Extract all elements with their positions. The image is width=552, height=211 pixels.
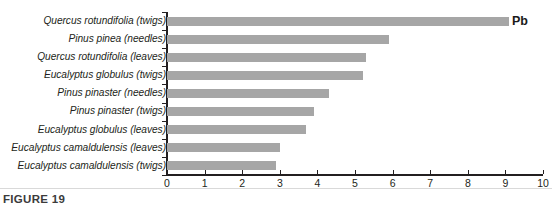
- bar-category-label: Quercus rotundifolia (twigs): [0, 12, 166, 30]
- value-axis-tick: [355, 170, 356, 174]
- value-axis-tick: [505, 170, 506, 174]
- figure-19: Quercus rotundifolia (twigs)Pinus pinea …: [0, 0, 552, 211]
- category-axis-tick: [162, 121, 167, 122]
- bar-category-label: Eucalyptus camaldulensis (leaves): [0, 139, 166, 157]
- category-axis-tick: [162, 30, 167, 31]
- caption-divider: [0, 188, 552, 189]
- category-axis-tick: [162, 48, 167, 49]
- bar-row: Pinus pinea (needles): [0, 30, 552, 48]
- category-axis-tick: [162, 139, 167, 140]
- value-axis-tick: [167, 170, 168, 174]
- bar-category-label: Eucalyptus globulus (leaves): [0, 121, 166, 139]
- value-axis-tick: [317, 170, 318, 174]
- bar-row: Eucalyptus globulus (leaves): [0, 121, 552, 139]
- value-axis-tick: [280, 170, 281, 174]
- category-axis-tick: [162, 157, 167, 158]
- bar: [167, 125, 306, 134]
- bar-category-label: Pinus pinaster (needles): [0, 84, 166, 102]
- bar-category-label: Pinus pinea (needles): [0, 30, 166, 48]
- bar-rows: Quercus rotundifolia (twigs)Pinus pinea …: [0, 12, 552, 175]
- bar-category-label: Eucalyptus globulus (twigs): [0, 66, 166, 84]
- bar-category-label: Pinus pinaster (twigs): [0, 102, 166, 120]
- bar-row: Pinus pinaster (needles): [0, 84, 552, 102]
- series-label-pb: Pb: [512, 12, 528, 30]
- bar-category-label: Eucalyptus camaldulensis (twigs): [0, 157, 166, 175]
- bar-row: Quercus rotundifolia (leaves): [0, 48, 552, 66]
- category-axis-tick: [162, 103, 167, 104]
- category-axis-tick: [162, 66, 167, 67]
- value-axis-tick: [242, 170, 243, 174]
- value-axis-tick: [205, 170, 206, 174]
- category-axis-tick: [162, 175, 167, 176]
- bar: [167, 89, 329, 98]
- bar: [167, 35, 389, 44]
- bar-category-label: Quercus rotundifolia (leaves): [0, 48, 166, 66]
- bar: [167, 107, 314, 116]
- bar: [167, 53, 366, 62]
- bar-row: Pinus pinaster (twigs): [0, 102, 552, 120]
- value-axis-tick: [393, 170, 394, 174]
- value-axis-tick: [468, 170, 469, 174]
- figure-caption: FIGURE 19: [3, 193, 65, 205]
- bar-row: Eucalyptus camaldulensis (leaves): [0, 139, 552, 157]
- value-axis-tick: [543, 170, 544, 174]
- bar: [167, 17, 509, 26]
- bar-row: Eucalyptus globulus (twigs): [0, 66, 552, 84]
- value-axis-tick: [430, 170, 431, 174]
- category-axis-tick: [162, 84, 167, 85]
- bar: [167, 143, 280, 152]
- bar: [167, 71, 363, 80]
- bar-chart-plot-area: Quercus rotundifolia (twigs)Pinus pinea …: [0, 0, 552, 190]
- bar-row: Eucalyptus camaldulensis (twigs): [0, 157, 552, 175]
- bar: [167, 161, 276, 170]
- category-axis-tick: [162, 12, 167, 13]
- bar-row: Quercus rotundifolia (twigs): [0, 12, 552, 30]
